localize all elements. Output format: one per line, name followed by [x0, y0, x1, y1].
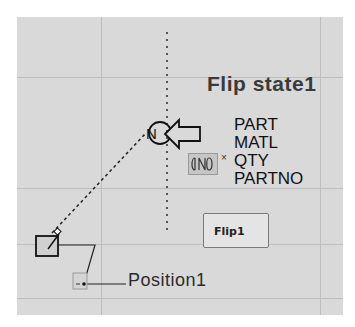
attribute-list: PART MATL QTY PARTNO	[234, 116, 303, 188]
flip-arrow-icon[interactable]: N	[146, 120, 200, 148]
flip-arrows-icon	[189, 154, 217, 174]
position-parameter-label[interactable]: Position1	[128, 270, 207, 291]
position-grip-icon[interactable]	[73, 273, 87, 289]
flip-state-label: Flip state1	[207, 72, 316, 96]
leader-line	[52, 133, 146, 233]
svg-text:N: N	[146, 125, 157, 142]
base-point-square-icon[interactable]	[36, 228, 61, 256]
flip-grip-button[interactable]	[188, 153, 218, 175]
position-leader	[58, 245, 95, 276]
attribute-partno[interactable]: PARTNO	[234, 170, 303, 188]
attribute-matl[interactable]: MATL	[234, 134, 303, 152]
attribute-qty[interactable]: QTY	[234, 152, 303, 170]
flip-grip-marker: ×	[221, 152, 227, 163]
flip-parameter-button[interactable]: Flip1	[203, 213, 269, 248]
attribute-part[interactable]: PART	[234, 116, 303, 134]
